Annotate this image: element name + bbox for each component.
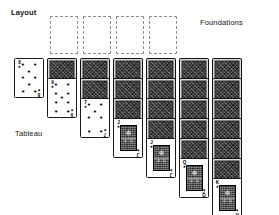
layout-label: Layout xyxy=(11,9,36,17)
tableau-card-face-up[interactable]: J♠J♠ xyxy=(146,138,176,178)
card-pip: ♠ xyxy=(34,75,37,80)
foundation-slot-2[interactable] xyxy=(83,16,111,54)
card-pip: ♠ xyxy=(94,109,97,114)
card-pip: ♠ xyxy=(67,83,70,88)
card-pip: ♠ xyxy=(100,103,103,108)
foundation-slot-4[interactable] xyxy=(149,16,177,54)
card-index-bottom-right: 8♠ xyxy=(36,87,42,96)
court-card-artwork xyxy=(219,185,236,211)
solitaire-layout-diagram: Layout Foundations Tableau 8♠8♠♠♠♠♠♠♠♠♠9… xyxy=(0,0,279,215)
tableau-card-face-up[interactable]: K♠K♠ xyxy=(212,178,242,215)
card-pip: ♠ xyxy=(67,91,70,96)
card-pip: ♠ xyxy=(55,100,58,105)
card-pip: ♠ xyxy=(22,75,25,80)
card-pip: ♠ xyxy=(22,88,25,93)
court-card-artwork xyxy=(120,125,137,151)
card-pip: ♠ xyxy=(55,91,58,96)
foundation-slot-1[interactable] xyxy=(50,16,78,54)
card-pip: ♠ xyxy=(28,69,31,74)
foundation-slot-3[interactable] xyxy=(116,16,144,54)
card-pip-group: ♠♠♠♠♠♠♠♠♠ xyxy=(55,83,69,113)
card-pip: ♠ xyxy=(34,88,37,93)
tableau-label: Tableau xyxy=(15,130,42,138)
card-pip-group: ♠♠♠♠♠♠♠ xyxy=(88,103,102,133)
court-card-artwork xyxy=(153,145,170,171)
tableau-card-face-up[interactable]: Q♠Q♠ xyxy=(179,158,209,198)
card-pip: ♠ xyxy=(100,128,103,133)
card-pip: ♠ xyxy=(55,83,58,88)
tableau-card-face-up[interactable]: 7♠7♠♠♠♠♠♠♠♠ xyxy=(80,98,110,138)
tableau-card-face-up[interactable]: 9♠9♠♠♠♠♠♠♠♠♠♠ xyxy=(47,78,77,118)
card-pip: ♠ xyxy=(88,128,91,133)
court-card-artwork xyxy=(186,165,203,191)
card-pip: ♠ xyxy=(28,82,31,87)
tableau-card-face-up[interactable]: J♠J♠ xyxy=(113,118,143,158)
card-pip: ♠ xyxy=(22,63,25,68)
card-pip: ♠ xyxy=(61,95,64,100)
card-index-bottom-right: 7♠ xyxy=(102,127,108,136)
tableau-card-face-up[interactable]: 8♠8♠♠♠♠♠♠♠♠♠ xyxy=(14,58,44,98)
card-index-bottom-right: 9♠ xyxy=(69,107,75,116)
card-pip: ♠ xyxy=(88,115,91,120)
card-pip: ♠ xyxy=(88,103,91,108)
foundations-label: Foundations xyxy=(200,19,243,27)
card-pip: ♠ xyxy=(34,63,37,68)
card-pip: ♠ xyxy=(67,108,70,113)
card-pip: ♠ xyxy=(100,115,103,120)
card-pip-group: ♠♠♠♠♠♠♠♠ xyxy=(22,63,36,93)
card-pip: ♠ xyxy=(67,100,70,105)
card-pip: ♠ xyxy=(55,108,58,113)
